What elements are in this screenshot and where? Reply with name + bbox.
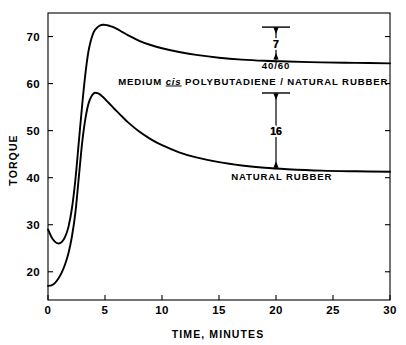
blend-label-full: MEDIUM cis POLYBUTADIENE / NATURAL RUBBE… — [118, 76, 388, 87]
y-tick-label: 40 — [26, 172, 40, 184]
y-tick-label: 30 — [26, 219, 40, 231]
y-tick-label: 60 — [26, 78, 40, 90]
torque-vs-time-chart: 051015202530203040506070 771616 40/60MED… — [0, 0, 406, 345]
x-tick-label: 20 — [269, 304, 283, 316]
gap-annotations: 771616 — [262, 27, 290, 168]
x-tick-label: 0 — [45, 304, 52, 316]
annotation-gap-lower: 1616 — [262, 93, 290, 168]
natural-rubber-label: NATURAL RUBBER — [231, 171, 332, 182]
x-tick-label: 15 — [212, 304, 226, 316]
x-axis-title: TIME, MINUTES — [172, 328, 264, 340]
curve-natural-rubber — [48, 93, 390, 286]
data-curves — [48, 25, 390, 286]
x-tick-label: 5 — [102, 304, 109, 316]
y-tick-label: 50 — [26, 125, 40, 137]
y-axis-title: TORQUE — [7, 134, 19, 185]
x-tick-label: 25 — [326, 304, 340, 316]
chart-figure: 051015202530203040506070 771616 40/60MED… — [0, 0, 406, 345]
series-labels: 40/60MEDIUM cis POLYBUTADIENE / NATURAL … — [118, 60, 388, 183]
annotation-value: 16 — [270, 125, 282, 137]
x-tick-label: 10 — [155, 304, 169, 316]
annotation-value: 7 — [273, 38, 279, 50]
curve-blend — [48, 25, 390, 244]
axis-tick-labels: 051015202530203040506070 — [26, 31, 396, 316]
annotation-gap-upper: 77 — [262, 27, 290, 60]
blend-label-ratio: 40/60 — [262, 60, 290, 71]
y-tick-label: 20 — [26, 266, 40, 278]
axes-frame — [48, 13, 390, 300]
y-tick-label: 70 — [26, 31, 40, 43]
x-tick-label: 30 — [383, 304, 397, 316]
